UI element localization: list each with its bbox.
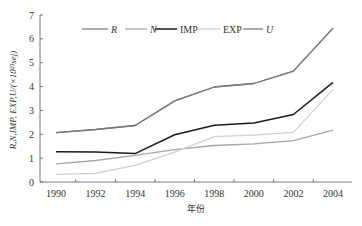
x-tick-label: 1996 bbox=[165, 188, 185, 199]
series-line-exp bbox=[56, 89, 333, 174]
x-axis-title: 年份 bbox=[187, 203, 205, 214]
x-tick-label: 2000 bbox=[244, 188, 264, 199]
legend-label-u: U bbox=[266, 24, 274, 35]
y-tick-label: 0 bbox=[29, 177, 34, 188]
series-line-imp bbox=[56, 82, 333, 153]
y-tick-label: 6 bbox=[29, 33, 34, 44]
axes bbox=[40, 15, 352, 182]
y-tick-label: 4 bbox=[29, 81, 34, 92]
x-tick-label: 2002 bbox=[283, 188, 303, 199]
data-series bbox=[56, 28, 333, 174]
series-line-u bbox=[56, 28, 333, 133]
series-line-n bbox=[56, 130, 333, 164]
x-tick-label: 1994 bbox=[125, 188, 145, 199]
y-tick-label: 7 bbox=[29, 10, 34, 21]
y-axis-title: R,N,IMP, EXP,U/(×10²³sej) bbox=[8, 51, 18, 150]
y-tick-label: 3 bbox=[29, 105, 34, 116]
y-tick-label: 1 bbox=[29, 153, 34, 164]
series-line-r bbox=[56, 28, 333, 133]
x-tick-label: 1990 bbox=[46, 188, 66, 199]
y-ticks: 01234567 bbox=[29, 10, 43, 188]
legend-label-imp: IMP bbox=[180, 24, 198, 35]
line-chart: 01234567 1990199219941996199820002002200… bbox=[0, 0, 362, 226]
x-tick-label: 1992 bbox=[86, 188, 106, 199]
legend: RNIMPEXPU bbox=[82, 24, 274, 35]
legend-label-exp: EXP bbox=[223, 24, 242, 35]
x-tick-label: 2004 bbox=[323, 188, 343, 199]
x-tick-label: 1998 bbox=[204, 188, 224, 199]
legend-label-r: R bbox=[110, 24, 117, 35]
y-tick-label: 5 bbox=[29, 57, 34, 68]
y-tick-label: 2 bbox=[29, 129, 34, 140]
